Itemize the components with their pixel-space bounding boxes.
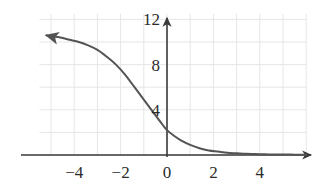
x-tick-label: −4: [65, 164, 83, 181]
y-tick-label: 12: [143, 11, 160, 28]
y-tick-label: 4: [152, 101, 161, 118]
plot-canvas: [0, 0, 322, 196]
x-tick-label: −2: [112, 164, 130, 181]
x-tick-label: 0: [163, 164, 172, 181]
x-tick-label: 4: [256, 164, 265, 181]
grid-vertical-lines: [51, 14, 306, 155]
y-tick-label: 8: [152, 56, 161, 73]
x-tick-label: 2: [209, 164, 218, 181]
data-curve: [46, 35, 306, 155]
graph-figure: −4−2024 4812: [0, 0, 322, 196]
